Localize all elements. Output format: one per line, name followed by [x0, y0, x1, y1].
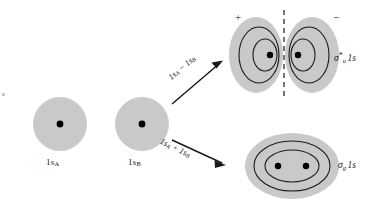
antibonding-right-nucleus-icon	[295, 52, 301, 58]
antibonding-left-nucleus-icon	[267, 52, 273, 58]
ao-a-nucleus-icon	[57, 121, 64, 128]
diagram-canvas	[0, 0, 377, 211]
ao-b-nucleus-icon	[139, 121, 146, 128]
ao-b-label: 1sB	[128, 157, 141, 167]
bonding-left-nucleus-icon	[275, 163, 281, 169]
antibonding-right-lobe-cloud	[285, 17, 339, 93]
antibonding-arrow-head	[212, 61, 224, 69]
antibonding-plus-sign: +	[235, 11, 241, 23]
antibonding-orbital-label: σ*u1s	[334, 51, 356, 64]
ao-a-label: 1sA	[46, 157, 59, 167]
antibonding-orbital	[229, 10, 339, 100]
antibonding-left-lobe-cloud	[229, 17, 283, 93]
bonding-orbital-label: σg1s	[338, 160, 356, 171]
bonding-orbital	[245, 133, 339, 199]
molecular-orbital-diagram: 1sA 1sB 1sA − 1sB 1sA + 1sB + − σ*u1s σg…	[0, 0, 377, 211]
atomic-orbital-a	[33, 97, 87, 151]
bonding-right-nucleus-icon	[303, 163, 309, 169]
antibonding-minus-sign: −	[333, 11, 339, 23]
bonding-cloud	[245, 133, 339, 199]
